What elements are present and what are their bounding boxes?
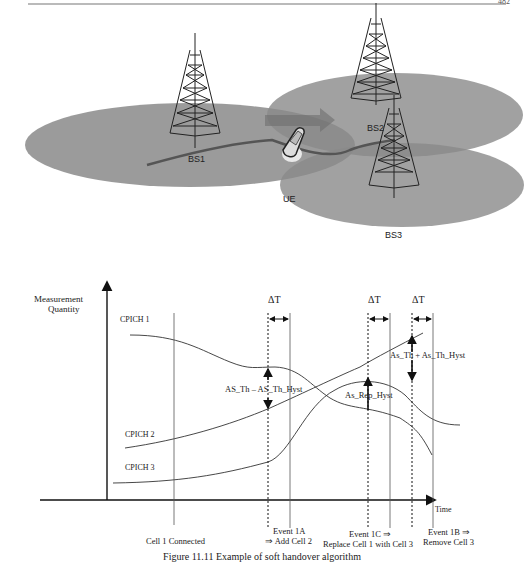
ue-label: UE	[283, 194, 296, 204]
annotation-as-th-minus-hyst: AS_Th – AS_Th_Hyst	[225, 384, 303, 394]
label-event-1c-line2: Replace Cell 1 with Cell 3	[323, 539, 413, 549]
bs1-label: BS1	[188, 154, 205, 164]
bs3-label: BS3	[385, 230, 402, 240]
annotation-as-rep-hyst: As_Rep_Hyst	[345, 390, 393, 400]
coverage-area-bs3	[280, 143, 524, 227]
x-axis-label: Time	[435, 505, 452, 514]
delta-t-label-2: ΔT	[368, 294, 381, 305]
delta-t-label-1: ΔT	[268, 294, 281, 305]
network-diagram: BS1 BS2 BS3 UE	[25, 3, 524, 240]
label-cell1-connected: Cell 1 Connected	[146, 536, 206, 546]
curve-cpich3	[113, 382, 460, 483]
delta-t-label-3: ΔT	[412, 294, 425, 305]
series-label-cpich3: CPICH 3	[125, 463, 155, 472]
y-axis-label-line1: Measurement	[34, 294, 83, 304]
y-axis-label-line2: Quantity	[48, 304, 80, 314]
label-event-1a-line1: Event 1A	[273, 526, 306, 536]
bs2-label: BS2	[367, 123, 384, 133]
handover-chart: Measurement Quantity Time CPICH 1 CPICH …	[34, 283, 474, 549]
series-label-cpich1: CPICH 1	[120, 315, 150, 324]
label-event-1b-line2: Remove Cell 3	[423, 537, 474, 547]
figure-caption: Figure 11.11 Example of soft handover al…	[0, 551, 524, 562]
annotation-as-th-plus-hyst: As_Th + As_Th_Hyst	[390, 350, 466, 360]
label-event-1c-line1: Event 1C ⇒	[349, 529, 391, 539]
series-label-cpich2: CPICH 2	[125, 430, 155, 439]
label-event-1a-line2: ⇒ Add Cell 2	[265, 536, 312, 546]
label-event-1b-line1: Event 1B ⇒	[428, 527, 470, 537]
figure-canvas: BS1 BS2 BS3 UE Meas	[0, 0, 524, 565]
